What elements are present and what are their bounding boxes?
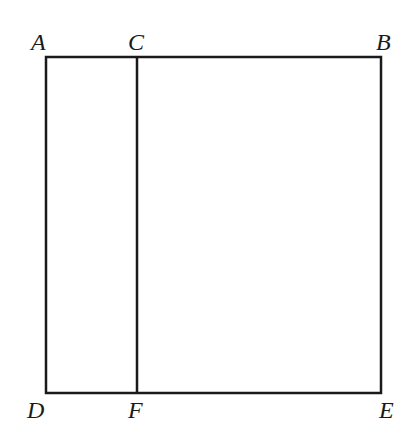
outer-rectangle-abed [46,57,381,393]
label-point-b: B [376,29,391,55]
label-point-d: D [26,397,44,423]
label-point-c: C [128,29,145,55]
label-point-f: F [127,397,143,423]
label-point-e: E [378,397,394,423]
geometry-diagram: A C B D F E [0,0,418,436]
label-point-a: A [29,29,46,55]
